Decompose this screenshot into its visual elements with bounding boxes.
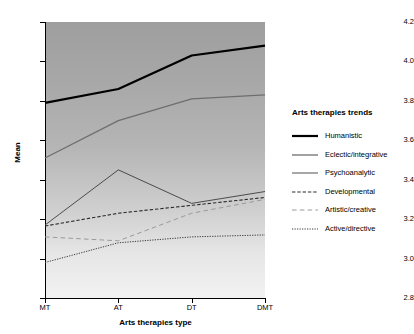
y-tick-label: 3.0: [378, 255, 414, 263]
series-line: [45, 95, 265, 158]
legend-line-swatch: [292, 187, 318, 197]
y-tick-label: 2.8: [378, 294, 414, 302]
legend-label: Active/directive: [325, 225, 375, 233]
legend-entries: HumanisticEclectic/integrativePsychoanal…: [292, 128, 412, 237]
legend-item[interactable]: Artistic/creative: [292, 202, 412, 218]
legend-item[interactable]: Eclectic/integrative: [292, 147, 412, 163]
legend-line-swatch: [292, 224, 318, 234]
legend-line-swatch: [292, 131, 318, 141]
legend-line-swatch: [292, 150, 318, 160]
legend-item[interactable]: Psychoanalytic: [292, 165, 412, 181]
x-axis-line: [45, 298, 266, 299]
y-tick-label: 4.2: [378, 18, 414, 26]
legend: Arts therapies trends HumanisticEclectic…: [292, 108, 412, 239]
legend-item[interactable]: Active/directive: [292, 221, 412, 237]
series-lines: [45, 22, 265, 298]
legend-title: Arts therapies trends: [292, 108, 412, 117]
chart-root: 2.83.03.23.43.63.84.04.2 MTATDTDMT Arts …: [0, 0, 414, 334]
y-tick-label: 4.0: [378, 57, 414, 65]
series-line: [45, 197, 265, 226]
y-axis-title: Mean: [13, 123, 22, 183]
series-line: [45, 46, 265, 103]
legend-item[interactable]: Developmental: [292, 184, 412, 200]
legend-label: Developmental: [325, 188, 375, 196]
x-axis-title: Arts therapies type: [45, 318, 266, 327]
legend-item[interactable]: Humanistic: [292, 128, 412, 144]
x-tick-label: DMT: [245, 304, 285, 312]
legend-line-swatch: [292, 205, 318, 215]
x-tick-label: MT: [25, 304, 65, 312]
legend-line-swatch: [292, 168, 318, 178]
legend-label: Psychoanalytic: [325, 169, 375, 177]
legend-label: Artistic/creative: [325, 206, 376, 214]
legend-label: Eclectic/integrative: [325, 151, 388, 159]
series-line: [45, 170, 265, 225]
y-tick-label: 3.8: [378, 97, 414, 105]
x-tick-label: AT: [98, 304, 138, 312]
legend-label: Humanistic: [325, 132, 362, 140]
x-tick-label: DT: [172, 304, 212, 312]
